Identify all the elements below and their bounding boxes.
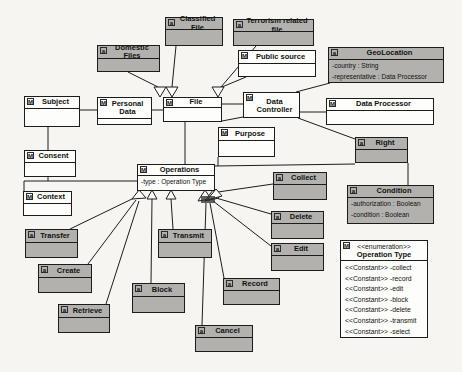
class-terrorism-related-file[interactable]: aTerrorism related file (233, 19, 314, 46)
connector-line (222, 117, 243, 121)
class-transmit[interactable]: aTransmit (158, 229, 212, 258)
edit-name-label: Edit (285, 245, 310, 254)
class-domestic-files[interactable]: aDomestic Files (97, 45, 160, 72)
class-cancel[interactable]: aCancel (195, 325, 253, 352)
cancel-classifier-icon: a (198, 327, 205, 334)
enumeration-operation-type[interactable]: M<<enumeration>>Operation Type<<Constant… (340, 240, 428, 338)
right-classifier-icon: a (358, 139, 365, 146)
connector-line (202, 203, 206, 325)
geolocation-attribute-row: -representative : Data Processor (332, 72, 441, 83)
personal-data-classifier-icon: M (100, 99, 107, 106)
class-edit[interactable]: aEdit (271, 243, 324, 271)
enumeration-literal-row: <<Constant>> -transmit (345, 316, 427, 327)
transfer-name-label: Transfer (31, 232, 72, 241)
enumeration-literal-row: <<Constant>> -delete (345, 305, 427, 316)
retrieve-name-label: Retrieve (64, 307, 105, 316)
connector-line (171, 199, 173, 229)
personal-data-name-label: Personal Data (102, 100, 148, 117)
enumeration-stereotype-label: <<enumeration>> (341, 243, 427, 250)
cancel-name-label: Cancel (206, 327, 242, 336)
enumeration-literal-row: <<Constant>> -select (345, 327, 427, 338)
generalization-arrowhead-icon (166, 87, 178, 97)
connector-line (70, 198, 134, 229)
class-create[interactable]: aCreate (38, 264, 92, 293)
retrieve-classifier-icon: a (61, 306, 68, 313)
transmit-name-label: Transmit (164, 232, 206, 241)
public-source-name-label: Public source (247, 53, 307, 62)
subject-classifier-icon: M (27, 98, 34, 105)
class-block[interactable]: aBlock (132, 283, 185, 313)
class-context[interactable]: MContext (23, 191, 72, 216)
connector-line (210, 203, 224, 278)
collect-name-label: Collect (282, 174, 318, 183)
consent-name-label: Consent (30, 152, 71, 161)
class-geolocation[interactable]: aGeoLocation-country : String-representa… (328, 47, 444, 83)
public-source-classifier-icon: M (241, 52, 248, 59)
class-data-controller[interactable]: MData Controller (243, 92, 300, 118)
enumeration-literal-row: <<Constant>> -record (345, 274, 427, 285)
delete-name-label: Delete (281, 213, 315, 222)
connector-line (218, 184, 273, 192)
class-file[interactable]: MFile (163, 97, 222, 122)
generalization-arrowhead-icon (166, 190, 176, 199)
connector-line (215, 164, 355, 166)
uml-class-diagram-canvas: MSubjectMPersonal DataMFileaDomestic Fil… (0, 0, 462, 372)
file-name-label: File (181, 98, 205, 107)
create-classifier-icon: a (41, 266, 48, 273)
operations-attribute-row: -type : Operation Type (141, 177, 212, 188)
geolocation-name-label: GeoLocation (358, 49, 415, 58)
geolocation-attributes: -country : String-representative : Data … (329, 60, 443, 82)
condition-attribute-row: -condition : Boolean (351, 210, 431, 221)
enumeration-literal-row: <<Constant>> -edit (345, 284, 427, 295)
connector-line (213, 201, 271, 246)
class-subject[interactable]: MSubject (24, 96, 80, 127)
subject-name-label: Subject (33, 98, 71, 107)
operations-name-label: Operations (151, 166, 202, 175)
data-processor-name-label: Data Processor (347, 100, 413, 109)
create-name-label: Create (48, 267, 82, 276)
connector-line (128, 72, 158, 87)
class-operations[interactable]: MOperations-type : Operation Type (137, 164, 215, 191)
class-public-source[interactable]: MPublic source (238, 50, 316, 77)
collect-classifier-icon: a (276, 174, 283, 181)
purpose-name-label: Purpose (226, 130, 267, 139)
connector-line (216, 198, 271, 214)
class-right[interactable]: aRight (355, 137, 408, 163)
terrorism-related-file-name-label: Terrorism related file (234, 17, 313, 34)
purpose-classifier-icon: M (221, 129, 228, 136)
block-name-label: Block (143, 286, 174, 295)
generalization-arrowhead-icon (147, 190, 157, 199)
condition-attribute-row: -authorization : Boolean (351, 199, 431, 210)
operations-attributes: -type : Operation Type (138, 176, 214, 188)
class-classified-file[interactable]: aClassified File (165, 17, 223, 46)
transmit-classifier-icon: a (161, 231, 168, 238)
condition-attributes: -authorization : Boolean-condition : Boo… (348, 198, 433, 220)
class-consent[interactable]: MConsent (24, 150, 76, 177)
operations-classifier-icon: M (140, 166, 147, 173)
block-classifier-icon: a (135, 285, 142, 292)
record-classifier-icon: a (226, 280, 233, 287)
class-condition[interactable]: aCondition-authorization : Boolean-condi… (347, 185, 434, 224)
class-record[interactable]: aRecord (223, 278, 280, 305)
geolocation-classifier-icon: a (331, 49, 338, 56)
class-personal-data[interactable]: MPersonal Data (97, 97, 152, 125)
generalization-arrowhead-icon (132, 190, 146, 199)
class-collect[interactable]: aCollect (273, 172, 327, 200)
condition-name-label: Condition (368, 187, 414, 196)
classified-file-classifier-icon: a (168, 19, 175, 26)
record-name-label: Record (233, 280, 270, 289)
class-retrieve[interactable]: aRetrieve (58, 304, 110, 333)
condition-classifier-icon: a (350, 187, 357, 194)
transfer-classifier-icon: a (28, 231, 35, 238)
enumeration-literal-row: <<Constant>> -collect (345, 263, 427, 274)
right-name-label: Right (366, 139, 396, 148)
terrorism-related-file-classifier-icon: a (236, 21, 243, 28)
domestic-files-name-label: Domestic Files (98, 44, 159, 61)
enumeration-literal-row: <<Constant>> -block (345, 295, 427, 306)
class-purpose[interactable]: MPurpose (218, 127, 275, 157)
class-data-processor[interactable]: MData Processor (326, 98, 434, 125)
class-delete[interactable]: aDelete (271, 211, 324, 239)
data-processor-classifier-icon: M (329, 100, 336, 107)
data-controller-classifier-icon: M (246, 94, 253, 101)
class-transfer[interactable]: aTransfer (25, 229, 78, 258)
